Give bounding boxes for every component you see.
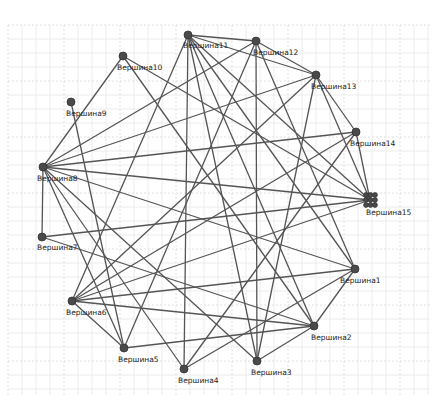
vertex-label: Вершина4: [178, 376, 219, 385]
vertex-dot[interactable]: [368, 193, 373, 198]
edge-v12-v3[interactable]: [256, 41, 257, 361]
edge-v11-v6[interactable]: [72, 35, 188, 301]
vertex-dot[interactable]: [351, 265, 359, 273]
edge-v15-v7[interactable]: [42, 200, 370, 237]
vertex-v15[interactable]: Вершина15: [364, 193, 412, 217]
edge-v2-v5[interactable]: [124, 326, 314, 348]
vertex-dot[interactable]: [312, 71, 320, 79]
vertex-label: Вершина13: [311, 82, 357, 91]
vertex-label: Вершина5: [118, 355, 159, 364]
edge-v3-v8[interactable]: [43, 167, 257, 361]
vertex-dot[interactable]: [38, 233, 46, 241]
vertex-dot[interactable]: [253, 357, 261, 365]
vertex-dot[interactable]: [67, 98, 75, 106]
vertex-dot[interactable]: [373, 203, 378, 208]
vertex-label: Вершина3: [251, 368, 292, 377]
vertex-dot[interactable]: [368, 203, 373, 208]
vertex-dot[interactable]: [368, 198, 373, 203]
vertex-dot[interactable]: [364, 193, 369, 198]
vertex-dot[interactable]: [39, 163, 47, 171]
vertex-v11[interactable]: Вершина11: [183, 31, 229, 50]
vertex-v10[interactable]: Вершина10: [117, 52, 163, 72]
vertex-v3[interactable]: Вершина3: [251, 357, 292, 377]
vertex-label: Вершина6: [66, 308, 107, 317]
graph-canvas: Вершина1Вершина2Вершина3Вершина4Вершина5…: [0, 0, 448, 412]
vertex-label: Вершина8: [37, 174, 78, 183]
vertex-dot[interactable]: [373, 198, 378, 203]
edge-v5-v8[interactable]: [43, 167, 124, 348]
vertex-dot[interactable]: [120, 344, 128, 352]
vertex-dot[interactable]: [373, 193, 378, 198]
vertex-dot[interactable]: [119, 52, 127, 60]
edge-v11-v2[interactable]: [188, 35, 314, 326]
vertex-dot[interactable]: [252, 37, 260, 45]
vertex-label: Вершина9: [66, 109, 107, 118]
vertex-label: Вершина2: [311, 333, 352, 342]
vertex-dot[interactable]: [310, 322, 318, 330]
edge-v13-v3[interactable]: [257, 75, 316, 361]
vertex-label: Вершина11: [183, 41, 229, 50]
edge-v11-v15[interactable]: [188, 35, 370, 200]
vertex-label: Вершина12: [253, 48, 299, 57]
vertex-label: Вершина15: [366, 208, 412, 217]
vertex-dot[interactable]: [352, 128, 360, 136]
vertex-dot[interactable]: [180, 365, 188, 373]
vertex-dot[interactable]: [364, 203, 369, 208]
vertex-dot[interactable]: [184, 31, 192, 39]
edge-v1-v6[interactable]: [72, 269, 355, 301]
edge-v12-v13[interactable]: [256, 41, 316, 75]
vertex-label: Вершина7: [37, 243, 78, 252]
vertex-dot[interactable]: [364, 198, 369, 203]
vertex-label: Вершина1: [340, 276, 381, 285]
vertex-label: Вершина10: [117, 63, 163, 72]
edge-v12-v8[interactable]: [43, 41, 256, 167]
vertex-label: Вершина14: [350, 139, 396, 148]
vertex-v1[interactable]: Вершина1: [340, 265, 381, 285]
vertex-dot[interactable]: [68, 297, 76, 305]
